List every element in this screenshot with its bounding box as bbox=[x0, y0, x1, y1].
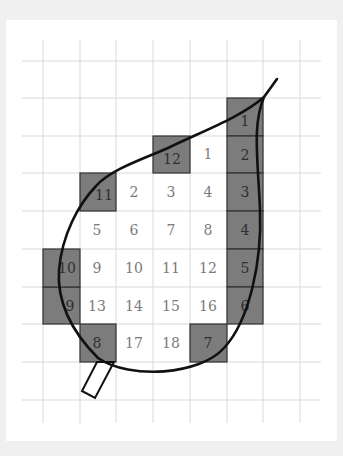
partial-label: 7 bbox=[204, 335, 213, 351]
partial-label: 8 bbox=[93, 335, 102, 351]
whole-label: 16 bbox=[199, 298, 217, 314]
partial-label: 4 bbox=[241, 222, 250, 238]
partial-label: 12 bbox=[163, 151, 181, 167]
whole-label: 15 bbox=[162, 298, 180, 314]
partial-label: 2 bbox=[241, 147, 250, 163]
whole-label: 5 bbox=[93, 222, 102, 238]
whole-label: 10 bbox=[125, 260, 143, 276]
whole-label: 7 bbox=[167, 222, 176, 238]
partial-label: 1 bbox=[241, 113, 250, 129]
partial-label: 11 bbox=[95, 187, 113, 203]
whole-label: 3 bbox=[167, 184, 176, 200]
partial-label: 3 bbox=[241, 184, 250, 200]
whole-label: 9 bbox=[93, 260, 102, 276]
whole-label: 17 bbox=[125, 335, 143, 351]
leaf-area-grid-diagram: 1 2 3 4 5 6 7 8 9 10 11 12 1 2 3 4 5 6 7… bbox=[0, 0, 343, 456]
whole-label: 14 bbox=[125, 298, 143, 314]
partial-label: 5 bbox=[241, 260, 250, 276]
whole-label: 4 bbox=[204, 184, 213, 200]
whole-label: 13 bbox=[88, 298, 106, 314]
leaf-stem bbox=[82, 362, 114, 398]
whole-label: 1 bbox=[204, 146, 213, 162]
whole-label: 8 bbox=[204, 222, 213, 238]
whole-label: 12 bbox=[199, 260, 217, 276]
whole-label: 11 bbox=[162, 260, 180, 276]
whole-label: 2 bbox=[130, 184, 139, 200]
whole-label: 6 bbox=[130, 222, 139, 238]
whole-label: 18 bbox=[162, 335, 180, 351]
